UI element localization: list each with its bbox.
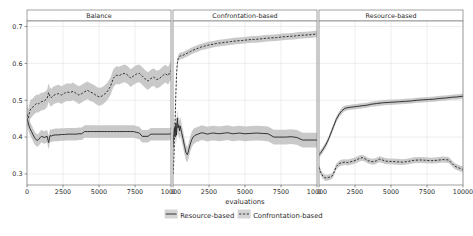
x-tick-label-3-2: 2500 [347, 188, 363, 196]
x-tick-label-2-3: 5000 [237, 188, 253, 196]
x-tick-label-2-1: 0 [171, 188, 175, 196]
legend-label-1: Resource-based [180, 212, 234, 220]
facet-title-3: Resource-based [366, 12, 417, 20]
x-axis-title: evaluations [225, 198, 265, 206]
y-tick-label-5: 0.7 [12, 23, 22, 31]
y-tick-label-3: 0.5 [12, 97, 22, 105]
chart-figure: Balance025005000750010000Confrontation-b… [0, 0, 473, 236]
x-tick-label-1-2: 2500 [55, 188, 71, 196]
x-tick-label-3-1: 0 [317, 188, 321, 196]
chart-legend: Resource-basedConfrontation-based [165, 210, 323, 221]
x-tick-label-3-3: 5000 [383, 188, 399, 196]
x-tick-label-2-2: 2500 [201, 188, 217, 196]
x-tick-label-1-3: 5000 [91, 188, 107, 196]
y-tick-label-2: 0.4 [12, 133, 22, 141]
legend-label-2: Confrontation-based [253, 212, 323, 220]
facet-line-chart: Balance025005000750010000Confrontation-b… [0, 0, 473, 236]
facet-title-2: Confrontation-based [212, 12, 277, 20]
x-tick-label-3-5: 10000 [453, 188, 473, 196]
x-tick-label-2-4: 7500 [273, 188, 289, 196]
y-tick-label-1: 0.3 [12, 170, 22, 178]
x-tick-label-1-4: 7500 [127, 188, 143, 196]
facet-title-1: Balance [86, 12, 112, 20]
x-tick-label-3-4: 7500 [419, 188, 435, 196]
y-tick-label-4: 0.6 [12, 60, 22, 68]
x-tick-label-1-1: 0 [25, 188, 29, 196]
